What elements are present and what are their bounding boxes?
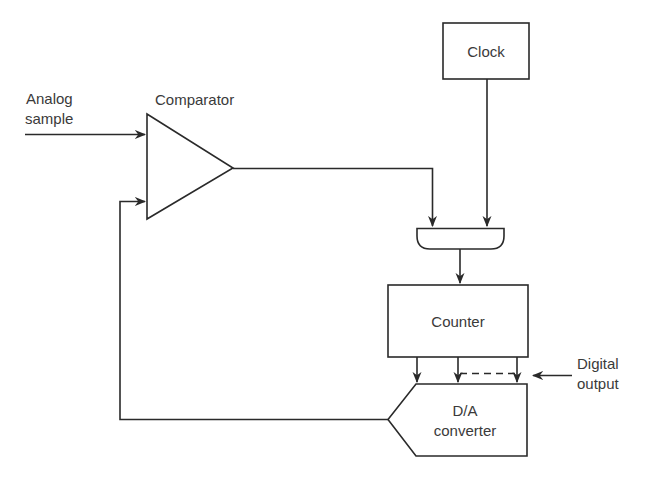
- feedback-arrow: [120, 202, 388, 420]
- clock-label: Clock: [467, 43, 505, 60]
- dac-label-line1: D/A: [452, 402, 477, 419]
- analog-sample-label-line2: sample: [25, 110, 73, 127]
- comparator-label: Comparator: [155, 91, 234, 108]
- analog-sample-input: Analog sample: [25, 90, 145, 135]
- counter-block: Counter: [388, 285, 528, 357]
- digital-output: Digital output: [533, 355, 620, 392]
- clock-block: Clock: [443, 23, 529, 226]
- comparator-triangle-icon: [147, 114, 233, 219]
- and-gate-icon: [417, 229, 504, 250]
- digital-output-label-line1: Digital: [577, 355, 619, 372]
- comparator-block: Comparator: [147, 91, 234, 219]
- dac-pentagon: [388, 384, 527, 456]
- dac-label-line2: converter: [434, 422, 497, 439]
- dac-block: D/A converter: [388, 384, 527, 456]
- adc-block-diagram: Analog sample Comparator Clock Counter D…: [0, 0, 649, 482]
- digital-output-label-line2: output: [577, 375, 620, 392]
- comparator-to-gate-arrow: [233, 169, 433, 227]
- analog-sample-label-line1: Analog: [26, 90, 73, 107]
- counter-label: Counter: [431, 313, 484, 330]
